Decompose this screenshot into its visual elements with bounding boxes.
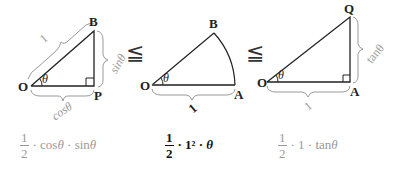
angle-theta-2: θ bbox=[163, 71, 169, 85]
vertex-b-2: B bbox=[209, 16, 218, 31]
fraction-half: 1 2 bbox=[278, 131, 287, 160]
less-equal-symbol-1: ≦ bbox=[126, 40, 144, 65]
vertex-b-1: B bbox=[89, 14, 98, 29]
vertex-q: Q bbox=[344, 1, 354, 16]
vertex-a-1: A bbox=[234, 87, 244, 102]
angle-theta-3: θ bbox=[278, 68, 284, 82]
vertex-o-1: O bbox=[18, 79, 28, 94]
formula-big-triangle-area: 1 2 · 1 · tanθ bbox=[278, 128, 338, 162]
label-tan-theta: tanθ bbox=[363, 41, 387, 66]
less-equal-symbol-2: ≦ bbox=[246, 40, 264, 65]
label-base-1: 1 bbox=[301, 99, 315, 114]
label-cos-theta: cosθ bbox=[49, 99, 75, 123]
triangle-oaq bbox=[267, 17, 363, 97]
fraction-half: 1 2 bbox=[165, 131, 174, 160]
formula-triangle-area: 1 2 · cosθ · sinθ bbox=[20, 128, 96, 162]
vertex-o-2: O bbox=[140, 78, 150, 93]
vertex-p: P bbox=[94, 88, 102, 103]
formula-sector-area: 1 2 · 1² · θ bbox=[165, 128, 213, 162]
sector-oab bbox=[152, 33, 235, 100]
angle-theta-1: θ bbox=[42, 72, 48, 86]
vertex-o-3: O bbox=[257, 75, 267, 90]
label-hypotenuse-1: 1 bbox=[37, 31, 51, 46]
vertex-a-2: A bbox=[350, 84, 360, 99]
label-radius: 1 bbox=[185, 100, 200, 116]
fraction-half: 1 2 bbox=[20, 131, 29, 160]
